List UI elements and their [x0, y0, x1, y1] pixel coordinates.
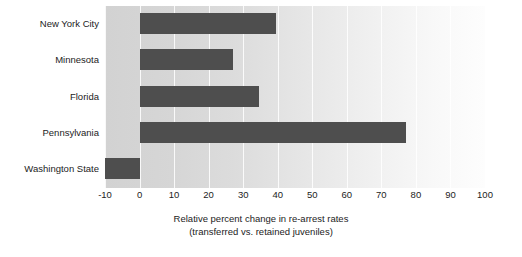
- x-tick-label: 20: [203, 189, 214, 200]
- bar-series: [105, 6, 485, 188]
- bar: [140, 86, 259, 107]
- x-tick-label: 10: [169, 189, 180, 200]
- bar-chart-figure: New York CityMinnesotaFloridaPennsylvani…: [0, 0, 522, 257]
- bar: [140, 13, 276, 34]
- x-tick-label: -10: [98, 189, 112, 200]
- category-axis-labels: New York CityMinnesotaFloridaPennsylvani…: [0, 6, 99, 188]
- x-tick-label: 30: [238, 189, 249, 200]
- bar: [140, 122, 406, 143]
- bar: [140, 49, 233, 70]
- x-tick-label: 0: [137, 189, 142, 200]
- plot-area: [105, 6, 485, 188]
- x-tick-label: 60: [342, 189, 353, 200]
- category-label: Minnesota: [0, 54, 99, 65]
- x-axis-title-line2: (transferred vs. retained juveniles): [0, 226, 522, 239]
- x-axis-title-line1: Relative percent change in re-arrest rat…: [0, 213, 522, 226]
- category-label: Florida: [0, 91, 99, 102]
- category-label: New York City: [0, 18, 99, 29]
- x-tick-label: 80: [411, 189, 422, 200]
- gridline: [485, 6, 486, 188]
- bar: [105, 158, 140, 179]
- category-label: Pennsylvania: [0, 127, 99, 138]
- x-tick-label: 100: [477, 189, 493, 200]
- x-tick-label: 90: [445, 189, 456, 200]
- x-tick-label: 40: [272, 189, 283, 200]
- x-tick-label: 50: [307, 189, 318, 200]
- x-axis-tick-labels: -100102030405060708090100: [105, 189, 485, 205]
- x-axis-title: Relative percent change in re-arrest rat…: [0, 213, 522, 238]
- x-tick-label: 70: [376, 189, 387, 200]
- category-label: Washington State: [0, 163, 99, 174]
